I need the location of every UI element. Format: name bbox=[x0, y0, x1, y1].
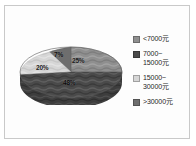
legend-item-2[interactable]: 15000~ 30000元 bbox=[133, 73, 191, 91]
chart-card: 25% 7% 20% 48% <7000元 7000~ 15000元 15000… bbox=[4, 5, 190, 139]
pie-slice-label-7: 7% bbox=[54, 51, 63, 58]
pie-3d-graphic: 25% 7% 20% 48% bbox=[19, 39, 123, 105]
pie-slice-label-25: 25% bbox=[72, 57, 84, 64]
legend-swatch-icon bbox=[133, 99, 140, 106]
legend-swatch-icon bbox=[133, 36, 140, 43]
pie-slice-label-20: 20% bbox=[36, 64, 48, 71]
legend-item-3[interactable]: >30000元 bbox=[133, 97, 191, 106]
legend-item-label: <7000元 bbox=[143, 34, 169, 43]
legend-item-label: 7000~ 15000元 bbox=[143, 49, 169, 67]
pie-svg bbox=[19, 39, 123, 105]
legend-item-label: >30000元 bbox=[143, 97, 173, 106]
legend-item-0[interactable]: <7000元 bbox=[133, 34, 191, 43]
chart-legend: <7000元 7000~ 15000元 15000~ 30000元 >30000… bbox=[133, 34, 191, 112]
legend-swatch-icon bbox=[133, 51, 140, 58]
pie-slice-label-48: 48% bbox=[63, 79, 75, 86]
legend-swatch-icon bbox=[133, 75, 140, 82]
legend-item-label: 15000~ 30000元 bbox=[143, 73, 169, 91]
pie-chart-plot-area: 25% 7% 20% 48% bbox=[5, 6, 133, 138]
legend-item-1[interactable]: 7000~ 15000元 bbox=[133, 49, 191, 67]
